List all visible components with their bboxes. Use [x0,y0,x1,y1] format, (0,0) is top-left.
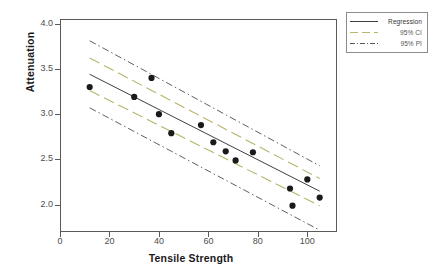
data-point [223,148,229,154]
legend-label-pi: 95% PI [379,40,424,47]
y-axis-tick-label: 4.0 [29,18,53,28]
data-point [87,84,93,90]
x-axis-tick-label: 100 [292,236,322,246]
data-point [148,75,154,81]
legend-item-pi[interactable]: 95% PI [349,38,424,49]
legend-item-regression[interactable]: Regression [349,16,424,27]
x-axis-title: Tensile Strength [60,252,322,264]
data-point [156,111,162,117]
data-point [131,94,137,100]
y-axis-tick-label: 2.5 [29,153,53,163]
legend-swatch-ci [349,28,379,37]
y-axis-tick-label: 3.0 [29,108,53,118]
y-axis-tick-label: 2.0 [29,199,53,209]
regression-line [90,74,320,191]
legend-label-ci: 95% CI [379,29,424,36]
legend: Regression 95% CI 95% PI [346,12,428,53]
ci-upper-line [90,58,320,179]
x-axis-tick-label: 20 [94,236,124,246]
x-axis-tick-label: 60 [193,236,223,246]
legend-swatch-pi [349,39,379,48]
x-axis-tick-label: 80 [243,236,273,246]
legend-item-ci[interactable]: 95% CI [349,27,424,38]
data-point [232,157,238,163]
ci-lower-line [90,91,320,206]
legend-swatch-regression [349,17,379,26]
plot-canvas [60,19,337,232]
data-point [168,130,174,136]
y-axis-tick-label: 3.5 [29,63,53,73]
pi-upper-line [90,41,320,166]
data-point [304,176,310,182]
legend-label-regression: Regression [379,18,424,25]
data-point [198,122,204,128]
pi-lower-line [90,108,320,230]
data-point [287,185,293,191]
data-point [289,203,295,209]
data-point [250,149,256,155]
x-axis-tick-label: 40 [144,236,174,246]
x-axis-tick-label: 0 [45,236,75,246]
data-point [210,139,216,145]
data-point [317,194,323,200]
chart-root: Attenuation Tensile Strength 4.03.53.02.… [0,0,439,276]
